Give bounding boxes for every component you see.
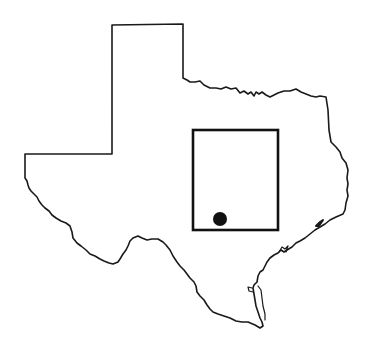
location-marker-dot (213, 212, 227, 226)
coastal-bay-feature (248, 287, 253, 292)
state-outline (25, 24, 348, 328)
highlight-region-box (193, 130, 278, 230)
texas-map (0, 0, 366, 357)
